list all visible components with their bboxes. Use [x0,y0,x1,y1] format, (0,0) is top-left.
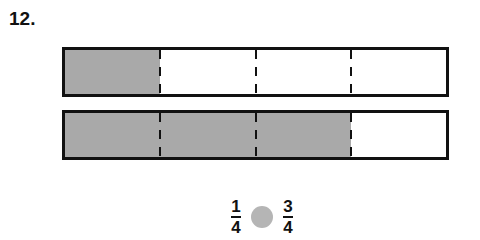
bar-2-part-1-shaded [65,113,160,157]
fraction-bar-2 [62,110,449,160]
comparison-answer-circle[interactable] [251,206,273,228]
bar-2-part-2-shaded [160,113,255,157]
bar-2-part-4 [351,113,446,157]
fraction-bar-1 [62,47,449,97]
fraction-left: 1 4 [231,198,241,236]
fraction-right: 3 4 [283,198,293,236]
bar-1-part-3 [256,50,351,94]
fraction-comparison: 1 4 3 4 [231,198,293,236]
bar-2-part-3-shaded [256,113,351,157]
bar-1-part-2 [160,50,255,94]
bar-1-part-1-shaded [65,50,160,94]
bar-1-part-4 [351,50,446,94]
fraction-left-numerator: 1 [231,198,240,215]
fraction-right-denominator: 4 [283,219,292,236]
fraction-right-numerator: 3 [283,198,292,215]
question-number: 12. [9,8,35,30]
fraction-left-denominator: 4 [231,219,240,236]
